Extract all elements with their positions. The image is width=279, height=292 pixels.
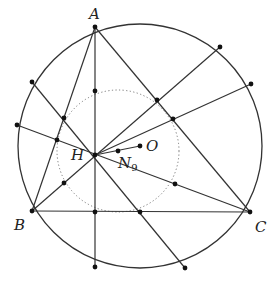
label-B: B (13, 216, 25, 234)
label-A: A (87, 5, 100, 23)
circumcircle-point (249, 82, 254, 87)
nine-point (62, 116, 67, 121)
label-N9: N9 (117, 154, 138, 173)
nine-point (93, 89, 98, 94)
vertex-A (93, 25, 98, 30)
label-H: H (70, 146, 85, 164)
nine-point (155, 98, 160, 103)
nine-point (171, 117, 176, 122)
circumcircle-point (218, 45, 223, 50)
nine-point (138, 210, 143, 215)
nine-point (93, 210, 98, 215)
circumcircle-point (30, 80, 35, 85)
label-N9-main: N (117, 154, 132, 172)
label-O: O (146, 137, 158, 155)
center-N9 (116, 149, 121, 154)
nine-point (55, 138, 60, 143)
label-N9-sub: 9 (131, 162, 137, 173)
center-H (93, 153, 98, 158)
vertex-B (30, 209, 35, 214)
circumcircle-point (15, 123, 20, 128)
nine-point (62, 181, 67, 186)
circumcircle-point (93, 265, 98, 270)
circumcircle-point (183, 266, 188, 271)
label-C: C (255, 218, 267, 236)
center-O (138, 144, 143, 149)
line-through-H-2 (32, 82, 185, 268)
nine-point-circle-diagram: A B C H O N9 (0, 0, 279, 292)
nine-point (173, 182, 178, 187)
vertex-C (248, 210, 253, 215)
